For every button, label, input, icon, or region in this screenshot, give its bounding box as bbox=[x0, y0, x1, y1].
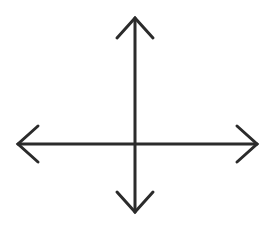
drawing-canvas bbox=[0, 0, 273, 229]
four-way-arrow-figure bbox=[0, 0, 273, 229]
